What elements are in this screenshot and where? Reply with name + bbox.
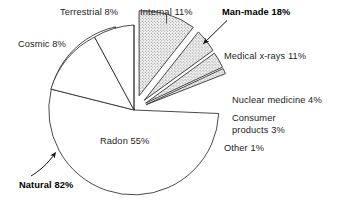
label-nuclear-medicine: Nuclear medicine 4%	[232, 95, 322, 106]
label-other: Other 1%	[224, 143, 264, 154]
label-cosmic: Cosmic 8%	[18, 39, 66, 50]
label-radon: Radon 55%	[100, 136, 150, 147]
label-natural: Natural 82%	[19, 180, 73, 191]
label-consumer-products-line1: Consumer	[232, 113, 276, 123]
man-made-arrow	[204, 21, 228, 44]
pie-chart-figure: Terrestrial 8% Internal 11% Man-made 18%…	[0, 0, 347, 204]
label-man-made: Man-made 18%	[222, 7, 290, 18]
natural-arrow	[31, 153, 56, 177]
label-consumer-products-line2: products 3%	[232, 125, 285, 135]
label-internal: Internal 11%	[140, 7, 193, 18]
label-medical-xrays: Medical x-rays 11%	[224, 51, 306, 62]
label-terrestrial: Terrestrial 8%	[60, 7, 118, 18]
label-consumer-products: Consumer products 3%	[232, 113, 322, 136]
